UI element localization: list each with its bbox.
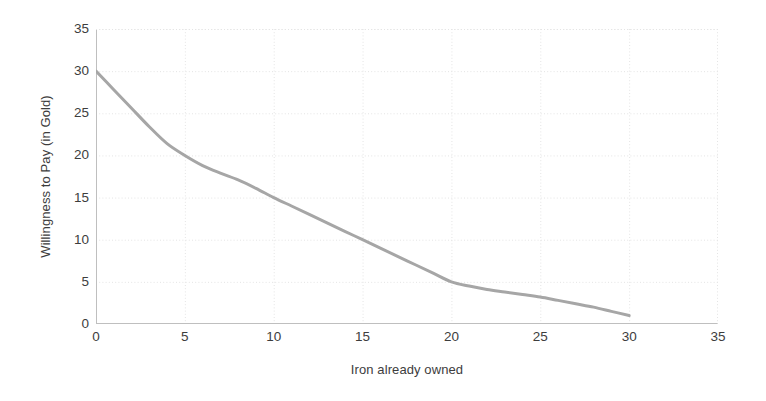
y-tick-label: 20 [46, 149, 96, 163]
axis-lines [96, 29, 718, 324]
plot-svg [96, 29, 718, 324]
y-tick-label: 10 [46, 233, 96, 247]
x-tick-label: 25 [533, 330, 548, 344]
y-tick-label: 0 [46, 317, 96, 331]
plot-area [96, 29, 718, 324]
data-line-willingness-to-pay [96, 71, 629, 315]
y-tick-label: 25 [46, 107, 96, 121]
vertical-gridlines [185, 29, 718, 324]
y-tick-label: 15 [46, 191, 96, 205]
x-tick-label: 15 [355, 330, 370, 344]
x-axis-tick-labels: 05101520253035 [0, 330, 766, 354]
x-tick-label: 30 [622, 330, 637, 344]
y-tick-label: 5 [46, 275, 96, 289]
horizontal-gridlines [96, 30, 718, 283]
x-tick-label: 5 [181, 330, 189, 344]
x-tick-label: 10 [266, 330, 281, 344]
x-tick-label: 0 [92, 330, 100, 344]
chart-container: Willingness to Pay (in Gold) 05101520253… [0, 0, 766, 401]
x-tick-label: 20 [444, 330, 459, 344]
y-tick-label: 35 [46, 22, 96, 36]
y-tick-label: 30 [46, 64, 96, 78]
x-axis-title: Iron already owned [96, 362, 718, 377]
x-tick-label: 35 [710, 330, 725, 344]
